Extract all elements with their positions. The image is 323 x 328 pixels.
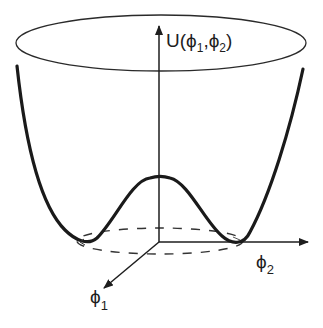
- potential-curve: [17, 66, 303, 242]
- phi1-axis: [104, 242, 159, 288]
- diagram-svg: U(ϕ1,ϕ2) ϕ2 ϕ1: [0, 0, 323, 328]
- rim-ellipse: [16, 15, 306, 71]
- right-minimum-mark: [233, 237, 240, 240]
- phi2-axis-label: ϕ2: [256, 251, 274, 277]
- potential-diagram: U(ϕ1,ϕ2) ϕ2 ϕ1: [0, 0, 323, 328]
- u-axis-label: U(ϕ1,ϕ2): [166, 30, 232, 55]
- phi1-axis-label: ϕ1: [90, 286, 108, 313]
